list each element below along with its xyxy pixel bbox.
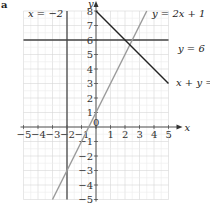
x-tick-label: −3 bbox=[46, 129, 61, 140]
y-axis-arrow-icon bbox=[94, 1, 99, 7]
line-label-2: y = 2x + 1 bbox=[151, 8, 206, 19]
x-tick-label: 0 bbox=[93, 117, 99, 128]
y-tick-label: −2 bbox=[78, 151, 93, 162]
graph: xy−5−4−3−2−1012345−5−4−3−2−112345678 x =… bbox=[0, 0, 210, 204]
y-tick-label: −4 bbox=[78, 180, 93, 191]
x-tick-label: 4 bbox=[151, 129, 157, 140]
labels: x = −2y = 6y = 2x + 1x + y = 8a bbox=[1, 0, 210, 88]
y-tick-label: 3 bbox=[87, 78, 93, 89]
y-tick-label: 5 bbox=[87, 49, 93, 60]
y-tick-label: 7 bbox=[87, 20, 93, 31]
y-tick-label: −3 bbox=[78, 165, 93, 176]
y-tick-label: 4 bbox=[87, 64, 93, 75]
y-tick-label: −1 bbox=[78, 136, 93, 147]
y-tick-label: −5 bbox=[78, 194, 93, 204]
line-label-1: y = 6 bbox=[177, 43, 205, 54]
x-tick-label: −5 bbox=[17, 129, 32, 140]
y-tick-label: 1 bbox=[87, 107, 93, 118]
x-axis-arrow-icon bbox=[177, 125, 183, 130]
line-label-3: x + y = 8 bbox=[176, 77, 210, 88]
x-tick-label: 5 bbox=[166, 129, 172, 140]
x-tick-label: 3 bbox=[137, 129, 143, 140]
line-label-0: x = −2 bbox=[28, 8, 63, 19]
x-tick-label: −4 bbox=[31, 129, 46, 140]
x-tick-label: 2 bbox=[122, 129, 128, 140]
figure-letter: a bbox=[1, 0, 8, 10]
x-tick-label: 1 bbox=[108, 129, 114, 140]
y-tick-label: 2 bbox=[87, 93, 93, 104]
x-axis-label: x bbox=[185, 122, 191, 133]
y-tick-label: 8 bbox=[87, 6, 93, 17]
